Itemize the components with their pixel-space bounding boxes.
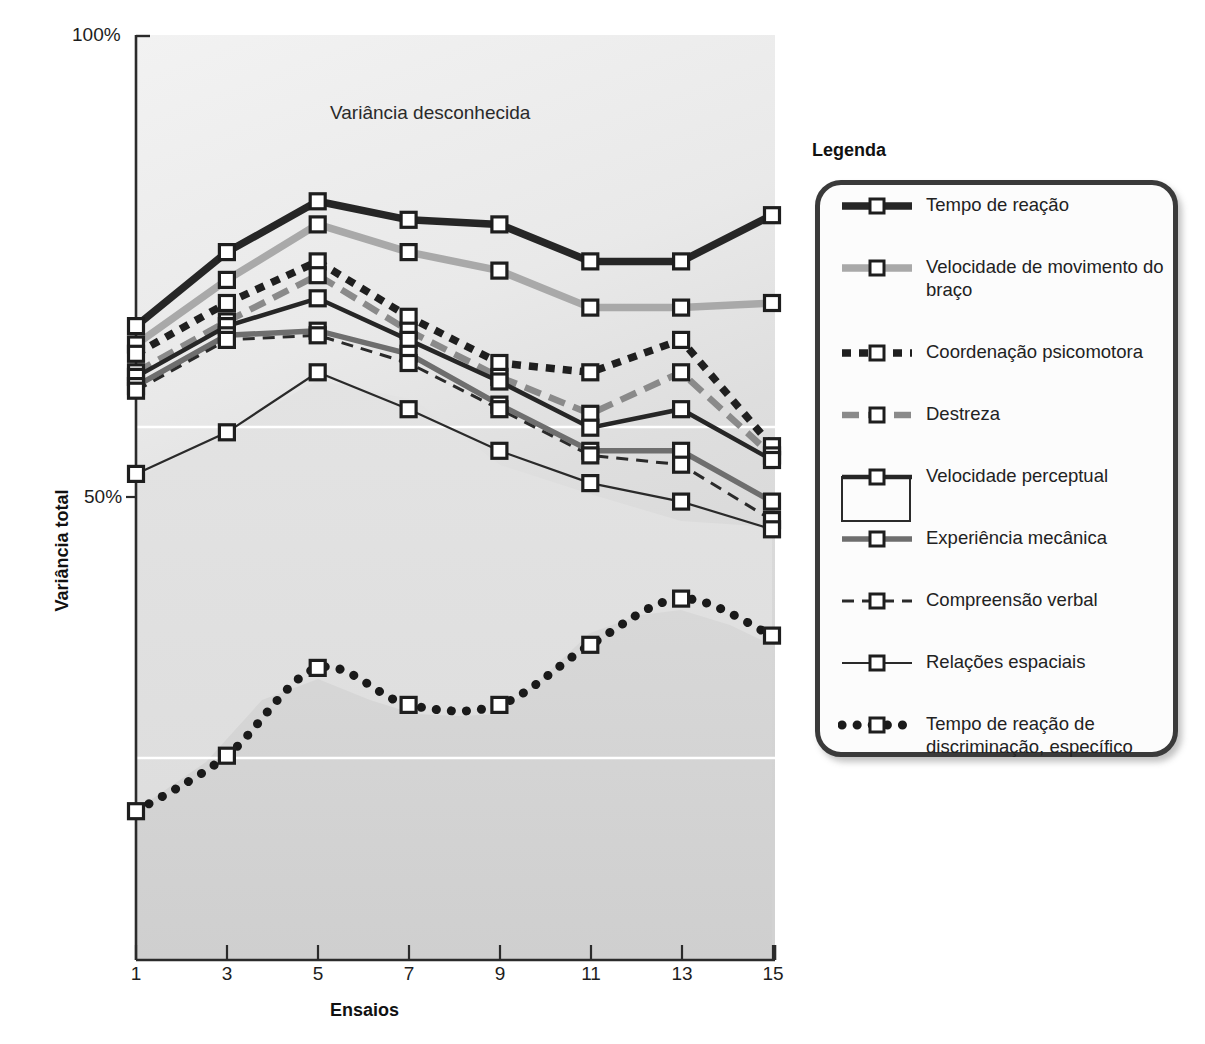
legend-item-label: Relações espaciais: [916, 650, 1085, 673]
legend-item-label: Tempo de reação de discriminação, especí…: [916, 712, 1168, 758]
legend-item-4[interactable]: Velocidade perceptual: [838, 467, 1168, 529]
legend-swatch-icon: [838, 467, 916, 493]
y-axis-tick-100: 100%: [72, 24, 121, 46]
legend-item-7[interactable]: Relações espaciais: [838, 653, 1168, 715]
legend-swatch-icon: [838, 196, 916, 222]
legend-item-label: Velocidade perceptual: [916, 464, 1108, 487]
legend-item-6[interactable]: Compreensão verbal: [838, 591, 1168, 653]
legend-items: Tempo de reaçãoVelocidade de movimento d…: [838, 196, 1168, 777]
legend-item-1[interactable]: Velocidade de movimento do braço: [838, 258, 1168, 343]
chart-figure: 100% 50% Variância total Ensaios 1 3 5 7…: [0, 0, 1205, 1044]
legend-swatch-icon: [838, 258, 916, 284]
x-axis-tick-15: 15: [753, 963, 793, 985]
legend-item-2[interactable]: Coordenação psicomotora: [838, 343, 1168, 405]
legend-swatch-icon: [838, 715, 916, 741]
y-axis-tick-50: 50%: [84, 486, 122, 508]
x-axis-tick-1: 1: [116, 963, 156, 985]
x-axis-tick-7: 7: [389, 963, 429, 985]
legend-item-label: Experiência mecânica: [916, 526, 1107, 549]
legend-item-label: Destreza: [916, 402, 1000, 425]
legend-item-8[interactable]: Tempo de reação de discriminação, especí…: [838, 715, 1168, 777]
x-axis-tick-9: 9: [480, 963, 520, 985]
y-axis-label: Variância total: [52, 461, 73, 641]
legend-item-label: Velocidade de movimento do braço: [916, 255, 1168, 301]
x-axis-tick-11: 11: [571, 963, 611, 985]
legend-item-label: Coordenação psicomotora: [916, 340, 1143, 363]
legend-swatch-icon: [838, 591, 916, 617]
legend-swatch-icon: [838, 405, 916, 431]
x-axis-label: Ensaios: [330, 1000, 399, 1021]
x-axis-tick-3: 3: [207, 963, 247, 985]
legend-item-0[interactable]: Tempo de reação: [838, 196, 1168, 258]
legend-swatch-icon: [838, 653, 916, 679]
legend-item-label: Compreensão verbal: [916, 588, 1098, 611]
legend-swatch-icon: [838, 343, 916, 369]
legend-item-3[interactable]: Destreza: [838, 405, 1168, 467]
x-axis-tick-13: 13: [662, 963, 702, 985]
legend-swatch-icon: [838, 529, 916, 555]
plot-annotation: Variância desconhecida: [330, 102, 530, 124]
legend-title: Legenda: [812, 140, 886, 161]
legend-item-5[interactable]: Experiência mecânica: [838, 529, 1168, 591]
legend-item-label: Tempo de reação: [916, 193, 1069, 216]
x-axis-tick-5: 5: [298, 963, 338, 985]
